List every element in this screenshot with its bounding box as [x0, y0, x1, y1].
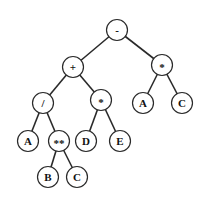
- tree-node: +: [63, 57, 84, 78]
- node-label: A: [139, 97, 147, 109]
- node-label: **: [54, 137, 66, 149]
- tree-node: C: [67, 167, 88, 188]
- node-label: -: [115, 24, 119, 36]
- tree-node: **: [49, 131, 70, 152]
- tree-node: *: [152, 55, 173, 76]
- node-label: *: [98, 96, 104, 108]
- node-label: C: [73, 171, 81, 183]
- node-label: C: [178, 97, 186, 109]
- tree-node: D: [76, 131, 97, 152]
- node-label: D: [82, 135, 90, 147]
- tree-node: -: [107, 20, 128, 41]
- tree-node: E: [110, 131, 131, 152]
- tree-node: *: [91, 90, 112, 111]
- node-label: *: [159, 61, 165, 73]
- tree-node: A: [133, 93, 154, 114]
- tree-node: /: [33, 93, 54, 114]
- node-label: E: [116, 135, 123, 147]
- node-label: B: [44, 171, 52, 183]
- expression-tree: -+*/*ACA**DEBC: [0, 0, 205, 202]
- tree-node: A: [18, 131, 39, 152]
- tree-node: C: [172, 93, 193, 114]
- node-label: A: [24, 135, 32, 147]
- node-label: +: [70, 61, 76, 73]
- tree-node: B: [38, 167, 59, 188]
- tree-nodes: -+*/*ACA**DEBC: [18, 20, 193, 188]
